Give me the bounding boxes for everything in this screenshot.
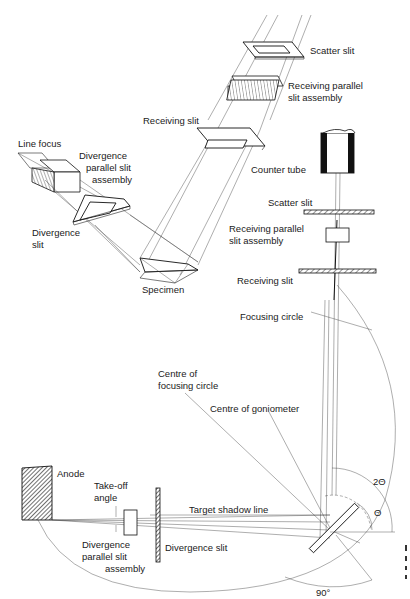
label-two-theta: 2Θ: [373, 476, 386, 487]
divergence-slit-side: [156, 488, 160, 562]
anode-shape: [22, 466, 52, 520]
label-div-parallel-side-2: parallel slit: [82, 551, 127, 562]
label-scatter-slit-top: Scatter slit: [310, 45, 355, 56]
ninety-line: [336, 535, 372, 580]
theta-arc: [357, 503, 372, 530]
label-scatter-slit-side: Scatter slit: [268, 197, 313, 208]
specimen-shape: [140, 258, 198, 283]
diffracted-beam-lower-right: [326, 300, 329, 540]
label-divergence-parallel-top-3: assembly: [92, 174, 132, 185]
label-divergence-parallel-top-1: Divergence: [79, 150, 127, 161]
receiving-slit-side: [299, 269, 376, 273]
label-theta: Θ: [374, 507, 381, 518]
label-receiving-parallel-side-2: slit assembly: [229, 235, 284, 246]
label-anode: Anode: [57, 468, 84, 479]
label-divergence-parallel-top-2: parallel slit: [86, 162, 131, 173]
scatter-slit-shape: [243, 42, 304, 59]
scatter-slit-side: [304, 210, 374, 214]
perspective-view: Scatter slit Receiving parallel slit ass…: [18, 15, 363, 295]
label-receiving-parallel-side-1: Receiving parallel: [229, 223, 304, 234]
label-divergence-slit-side: Divergence slit: [165, 542, 228, 553]
label-div-parallel-side-1: Divergence: [82, 539, 130, 550]
diffracted-beam-lower-left: [320, 300, 325, 540]
label-focusing-circle: Focusing circle: [240, 311, 303, 322]
specimen-side: [309, 503, 358, 552]
divergence-parallel-slit-side: [124, 510, 137, 535]
label-centre-focusing-1: Centre of: [158, 368, 197, 379]
goniometer-diagram: Scatter slit Receiving parallel slit ass…: [0, 0, 410, 599]
receiving-slit-shape: [197, 128, 265, 150]
label-counter-tube: Counter tube: [251, 164, 306, 175]
label-centre-goniometer: Centre of goniometer: [210, 403, 299, 414]
label-target-shadow: Target shadow line: [189, 504, 268, 515]
label-receiving-parallel-top-1: Receiving parallel: [288, 80, 363, 91]
label-receiving-slit-top: Receiving slit: [143, 115, 199, 126]
caption-fragment: [405, 545, 407, 579]
label-ninety: 90°: [316, 587, 331, 598]
label-specimen: Specimen: [142, 284, 184, 295]
ninety-arc: [285, 577, 372, 587]
side-view: Counter tube Scatter slit Receiving para…: [22, 129, 407, 598]
label-receiving-slit-side: Receiving slit: [237, 275, 293, 286]
divergence-beam-lines: [45, 180, 198, 272]
label-centre-focusing-2: focusing circle: [158, 380, 218, 391]
divergence-slit-shape: [73, 195, 130, 225]
label-div-parallel-side-3: assembly: [105, 563, 145, 574]
counter-tube-shape: [321, 129, 355, 173]
label-takeoff-2: angle: [94, 492, 117, 503]
label-divergence-slit-top-2: slit: [32, 239, 44, 250]
focusing-circle-leader: [311, 312, 372, 330]
label-divergence-slit-top-1: Divergence: [32, 227, 80, 238]
label-line-focus: Line focus: [18, 138, 62, 149]
receiving-parallel-slit-side: [326, 228, 349, 242]
receiving-parallel-slit-shape: [227, 76, 283, 100]
diagram-canvas: Scatter slit Receiving parallel slit ass…: [0, 0, 410, 599]
label-receiving-parallel-top-2: slit assembly: [288, 92, 343, 103]
label-takeoff-1: Take-off: [94, 480, 128, 491]
centre-goniometer-leader: [269, 412, 330, 528]
diffracted-beam-left: [332, 173, 336, 495]
